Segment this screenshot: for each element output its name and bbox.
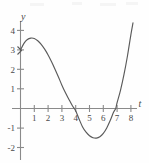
x-tick-label: 7	[115, 113, 120, 123]
graph-figure: 1 2 3 4 5 6 7 8 4 3 2 1 -1 -2 y t	[0, 0, 149, 163]
x-tick-label: 5	[87, 113, 92, 123]
x-tick-label: 1	[32, 113, 37, 123]
x-tick-labels: 1 2 3 4 5 6 7 8	[32, 113, 134, 123]
y-axis-label: y	[20, 11, 26, 22]
x-axis-label: t	[139, 98, 142, 109]
x-tick-label: 6	[101, 113, 106, 123]
y-tick-label: -2	[8, 143, 16, 153]
y-tick-labels: 4 3 2 1 -1 -2	[8, 26, 16, 153]
x-tick-label: 8	[129, 113, 134, 123]
y-tick-label: -1	[8, 123, 16, 133]
y-tick-label: 3	[11, 45, 16, 55]
x-tick-label: 2	[46, 113, 51, 123]
coordinate-plot: 1 2 3 4 5 6 7 8 4 3 2 1 -1 -2 y t	[0, 0, 149, 163]
y-tick-label: 2	[11, 65, 16, 75]
y-tick-label: 4	[11, 26, 16, 36]
axes-group	[12, 21, 137, 160]
x-tick-label: 3	[60, 113, 65, 123]
y-tick-label: 1	[11, 84, 16, 94]
